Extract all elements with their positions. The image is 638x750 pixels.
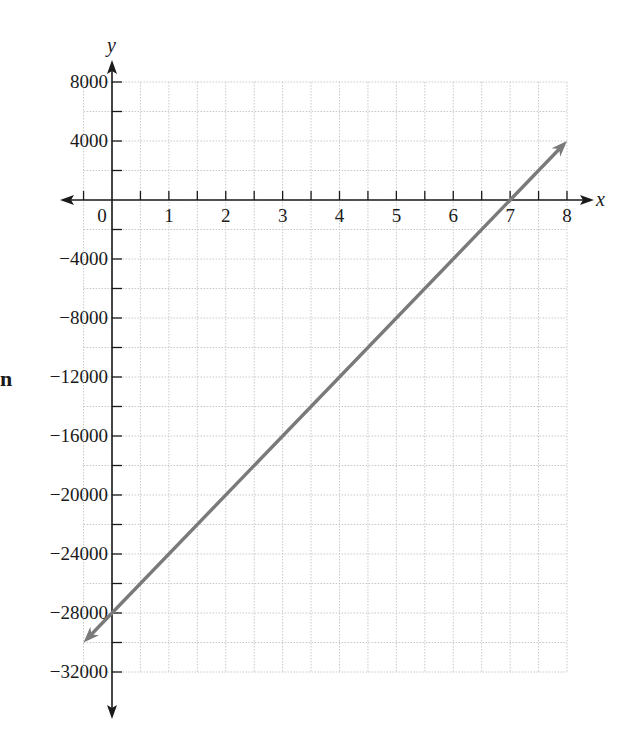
x-axis-label: x (595, 188, 605, 210)
series-line (89, 147, 561, 637)
x-tick-label: 4 (335, 205, 345, 226)
y-tick-label: 4000 (70, 130, 108, 151)
x-tick-label: 1 (164, 205, 174, 226)
x-tick-label: 7 (505, 205, 515, 226)
y-tick-label: −8000 (59, 307, 108, 328)
line-chart: xy 01234567880004000−4000−8000−12000−160… (0, 0, 638, 750)
y-axis-label: y (105, 34, 116, 57)
y-tick-label: −32000 (50, 661, 108, 682)
y-tick-label: −4000 (59, 248, 108, 269)
y-tick-label: −20000 (50, 484, 108, 505)
y-tick-label: −16000 (50, 425, 108, 446)
x-tick-label: 0 (97, 205, 107, 226)
y-tick-label: −24000 (50, 543, 108, 564)
y-tick-label: −28000 (50, 602, 108, 623)
grid (84, 82, 567, 672)
y-tick-label: 8000 (70, 71, 108, 92)
x-tick-label: 5 (392, 205, 402, 226)
y-tick-label: −12000 (50, 366, 108, 387)
data-series (84, 141, 567, 643)
x-tick-label: 2 (221, 205, 231, 226)
x-tick-label: 3 (278, 205, 288, 226)
x-tick-label: 8 (562, 205, 572, 226)
x-tick-label: 6 (449, 205, 459, 226)
